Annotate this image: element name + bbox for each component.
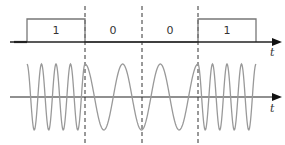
- top-axis-arrow-icon: [272, 38, 282, 46]
- bit-label-2: 0: [110, 25, 117, 36]
- digital-signal: [10, 19, 282, 46]
- bottom-axis-arrow-icon: [272, 93, 282, 101]
- top-axis-label: t: [270, 47, 274, 58]
- bit-label-3: 0: [167, 25, 174, 36]
- bit-boundaries: [85, 6, 198, 143]
- bottom-axis-label: t: [270, 103, 274, 114]
- bit-label-4: 1: [224, 25, 231, 36]
- modulated-signal: [10, 64, 282, 130]
- bit-label-1: 1: [53, 25, 60, 36]
- fsk-diagram: [0, 0, 285, 145]
